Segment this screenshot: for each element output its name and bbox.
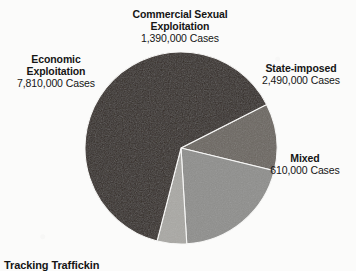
slice-label-name: Commercial Sexual — [104, 8, 256, 20]
slice-label-commercial-sexual-exploitation: Commercial Sexual Exploitation 1,390,000… — [104, 8, 256, 45]
slice-label-name: State-imposed — [248, 62, 354, 74]
slice-label-name-line2: Exploitation — [2, 65, 110, 77]
slice-label-name: Economic — [2, 53, 110, 65]
slice-label-name: Mixed — [256, 152, 354, 164]
slice-label-name-line2: Exploitation — [104, 20, 256, 32]
figure-caption: Tracking Traffickin — [4, 259, 99, 271]
slice-label-value: 2,490,000 Cases — [248, 74, 354, 86]
slice-label-economic-exploitation: Economic Exploitation 7,810,000 Cases — [2, 53, 110, 90]
slice-label-value: 7,810,000 Cases — [2, 77, 110, 89]
slice-label-value: 610,000 Cases — [256, 164, 354, 176]
slice-label-value: 1,390,000 Cases — [104, 32, 256, 44]
slice-label-state-imposed: State-imposed 2,490,000 Cases — [248, 62, 354, 86]
slice-label-mixed: Mixed 610,000 Cases — [256, 152, 354, 176]
